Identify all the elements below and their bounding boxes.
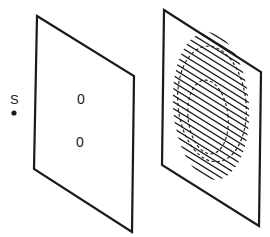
fringe-line (160, 87, 262, 150)
hole-upper: 0 (77, 91, 85, 107)
fringe-line (160, 140, 262, 203)
fringe-line (160, 67, 262, 130)
fringe-line (160, 34, 262, 97)
fringe-line (160, 94, 262, 157)
fringe-line (160, 41, 262, 104)
fringe-line (160, 113, 262, 176)
fringe-line (160, 0, 262, 51)
source-point: S (10, 92, 19, 116)
fringe-line (160, 14, 262, 77)
fringe-line (160, 153, 262, 216)
fringe-line (160, 127, 262, 190)
fringe-line (160, 21, 262, 84)
source-dot (11, 110, 16, 115)
interference-diagram: S 0 0 (0, 0, 270, 237)
aperture-screen: 0 0 (34, 16, 134, 232)
source-label: S (10, 92, 19, 107)
fringe-line (160, 74, 262, 137)
fringe-line (160, 1, 262, 64)
fringe-line (160, 0, 262, 58)
hole-lower: 0 (76, 134, 84, 150)
aperture-screen-frame (34, 16, 134, 232)
fringe-line (160, 133, 262, 196)
fringe-screen (160, 0, 262, 226)
fringe-line (160, 146, 262, 209)
fringe-line (160, 107, 262, 170)
fringe-line (160, 47, 262, 110)
